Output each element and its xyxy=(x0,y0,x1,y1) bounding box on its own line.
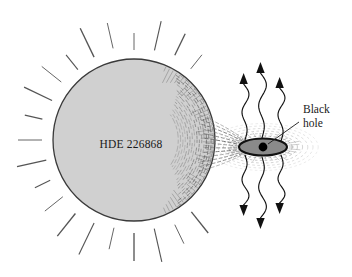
star-name-label: HDE 226868 xyxy=(99,138,162,150)
diagram-canvas: HDE 226868 Black hole xyxy=(0,0,352,277)
black-hole-label-line2: hole xyxy=(303,117,323,129)
black-hole-label-line1: Black xyxy=(303,103,330,115)
black-hole-point xyxy=(259,143,268,152)
xray-binary-diagram: HDE 226868 Black hole xyxy=(0,0,352,277)
black-hole-leader-line xyxy=(268,122,299,144)
